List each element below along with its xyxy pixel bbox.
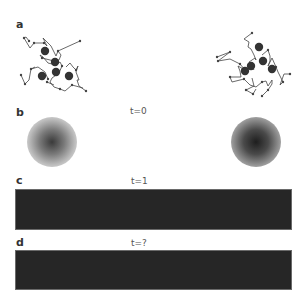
time-label-b: t=0 [130, 106, 147, 116]
density-field-d [15, 250, 292, 290]
density-field-c [15, 189, 292, 230]
density-blob-right [231, 117, 281, 167]
random-walk-right [0, 0, 306, 100]
panel-label-b: b [16, 106, 24, 119]
density-blob-left [27, 117, 77, 167]
panel-label-d: d [16, 236, 24, 249]
time-label-c: t=1 [131, 176, 148, 186]
panel-label-c: c [16, 174, 23, 187]
time-label-d: t=? [131, 238, 147, 248]
